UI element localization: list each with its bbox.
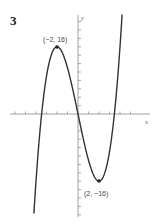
cubic-function-graph: 3 y x (−2, 16) (2, −16): [0, 0, 158, 224]
figure-number: 3: [10, 13, 17, 28]
local-min-point: [97, 179, 101, 183]
local-max-point: [55, 45, 59, 49]
y-axis-label: y: [80, 14, 85, 22]
axes: y x: [10, 14, 150, 217]
local-min-label: (2, −16): [84, 190, 108, 198]
x-axis-label: x: [144, 118, 149, 126]
local-max-label: (−2, 16): [43, 36, 67, 44]
